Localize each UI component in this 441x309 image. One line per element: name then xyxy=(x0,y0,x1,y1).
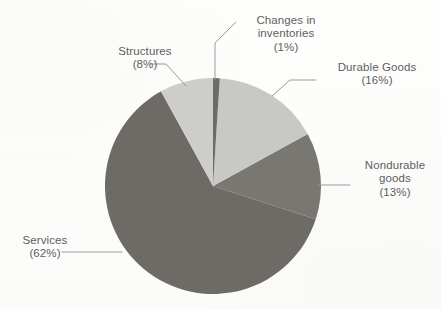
pie-chart-figure: Changes in inventories (1%) Durable Good… xyxy=(0,0,441,309)
slice-percent-value: (13%) xyxy=(352,186,438,199)
slice-label-line: Changes in xyxy=(238,14,334,27)
slice-label-line: Services xyxy=(8,234,82,247)
slice-percent-value: (16%) xyxy=(318,74,436,87)
pie-slices xyxy=(105,78,321,294)
slice-percent-value: (62%) xyxy=(8,247,82,260)
slice-percent-value: (1%) xyxy=(238,41,334,54)
slice-label-changes-in-inventories: Changes in inventories (1%) xyxy=(238,14,334,54)
leader-line-durable-goods xyxy=(272,80,316,96)
slice-label-structures: Structures (8%) xyxy=(100,45,190,72)
slice-label-line: Nondurable xyxy=(352,159,438,172)
slice-label-line: Durable Goods xyxy=(318,61,436,74)
slice-label-nondurable-goods: Nondurable goods (13%) xyxy=(352,159,438,199)
slice-label-durable-goods: Durable Goods (16%) xyxy=(318,61,436,88)
slice-label-line: Structures xyxy=(100,45,190,58)
slice-label-line: goods xyxy=(352,172,438,185)
pie-chart-graphic xyxy=(0,0,441,309)
slice-label-line: inventories xyxy=(238,27,334,40)
slice-percent-value: (8%) xyxy=(100,58,190,71)
slice-label-services: Services (62%) xyxy=(8,234,82,261)
leader-line-changes-in-inventories xyxy=(215,22,236,80)
